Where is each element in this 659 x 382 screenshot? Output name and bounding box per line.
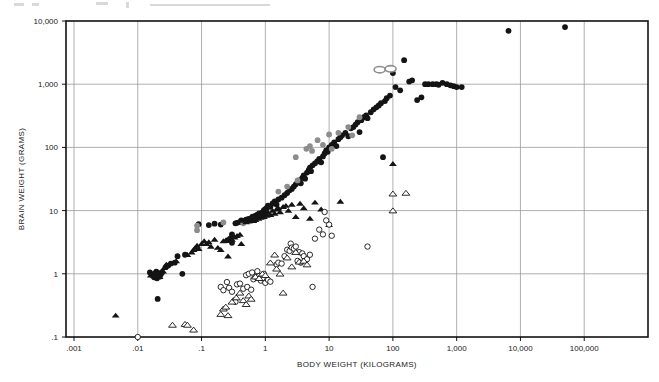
data-point — [506, 28, 512, 34]
data-point — [308, 168, 314, 174]
data-point — [317, 227, 322, 232]
x-tick-label: 10,000 — [508, 344, 533, 353]
data-point — [279, 261, 284, 266]
series-filled-circle — [147, 24, 568, 302]
x-tick-label: 10 — [325, 344, 334, 353]
series-grey-open-outlier — [374, 66, 396, 73]
data-point — [220, 220, 226, 226]
x-tick-label: 1,000 — [447, 344, 468, 353]
data-point — [221, 288, 226, 293]
data-point — [309, 148, 315, 154]
y-tick-label: 10 — [49, 207, 58, 216]
data-point — [295, 178, 301, 184]
data-point — [336, 130, 342, 136]
data-point — [310, 284, 315, 289]
data-point — [206, 222, 212, 228]
data-point — [212, 221, 218, 227]
data-point — [409, 77, 415, 83]
y-tick-label: .1 — [51, 333, 58, 342]
data-point — [387, 93, 393, 99]
data-point — [293, 244, 298, 249]
data-point — [322, 209, 327, 214]
data-point — [194, 227, 200, 233]
data-points — [112, 24, 568, 339]
data-point — [296, 201, 304, 206]
x-tick-label: .001 — [66, 344, 82, 353]
data-point — [275, 189, 281, 195]
y-axis-title: BRAIN WEIGHT (GRAMS) — [17, 128, 26, 230]
data-point — [454, 84, 460, 90]
data-point — [288, 202, 296, 207]
plot-canvas: .001.01.11101001,00010,000100,000 .11101… — [0, 0, 659, 382]
data-point — [336, 199, 344, 204]
data-point — [284, 184, 290, 190]
data-point — [320, 142, 326, 148]
data-point — [224, 253, 232, 258]
data-point — [217, 311, 225, 316]
tick-marks — [62, 21, 584, 341]
y-tick-label: 100 — [45, 143, 59, 152]
series-filled-triangle — [112, 161, 397, 318]
data-point — [385, 66, 396, 72]
x-tick-label: 100,000 — [570, 344, 599, 353]
data-point — [293, 154, 299, 160]
x-tick-label: 1 — [263, 344, 268, 353]
data-point — [307, 252, 312, 257]
y-tick-label: 10,000 — [34, 17, 59, 26]
data-point — [155, 296, 161, 302]
data-point — [273, 266, 281, 271]
data-point — [271, 252, 279, 257]
data-point — [266, 260, 274, 265]
data-point — [357, 129, 363, 135]
data-point — [401, 57, 407, 63]
data-point — [389, 191, 397, 196]
data-point — [365, 115, 371, 121]
data-point — [357, 114, 363, 120]
data-point — [190, 327, 198, 332]
data-point — [380, 154, 386, 160]
data-point — [311, 200, 319, 205]
data-point — [329, 146, 335, 152]
data-point — [320, 232, 325, 237]
data-point — [179, 271, 185, 277]
data-point — [459, 84, 465, 90]
data-point — [232, 295, 240, 300]
data-point — [419, 94, 425, 100]
data-point — [237, 241, 245, 246]
x-tick-label: .01 — [132, 344, 144, 353]
data-point — [306, 216, 314, 221]
data-point — [389, 161, 397, 166]
data-point — [326, 132, 332, 138]
data-point — [288, 264, 296, 269]
scatter-plot-figure: .001.01.11101001,00010,000100,000 .11101… — [0, 0, 659, 382]
y-tick-label: 1 — [54, 270, 59, 279]
data-point — [292, 214, 300, 219]
y-tick-labels: .11101001,00010,000 — [34, 17, 59, 342]
gridlines — [66, 21, 648, 337]
data-point — [402, 190, 410, 195]
data-point — [374, 66, 385, 72]
data-point — [329, 233, 334, 238]
data-point — [268, 279, 273, 284]
series-open-circle — [135, 209, 370, 339]
series-grey-circle — [194, 114, 362, 233]
data-point — [365, 244, 370, 249]
data-point — [349, 132, 355, 138]
y-tick-label: 1,000 — [38, 80, 59, 89]
data-point — [248, 287, 253, 292]
x-tick-labels: .001.01.11101001,00010,000100,000 — [66, 344, 599, 353]
data-point — [211, 237, 219, 242]
data-point — [169, 322, 177, 327]
data-point — [224, 313, 232, 318]
x-axis-title: BODY WEIGHT (KILOGRAMS) — [297, 360, 417, 369]
data-point — [112, 313, 120, 318]
x-tick-label: .1 — [198, 344, 205, 353]
data-point — [312, 236, 317, 241]
data-point — [318, 159, 324, 165]
data-point — [345, 124, 351, 130]
data-point — [315, 137, 321, 143]
plot-frame — [66, 21, 648, 337]
data-point — [562, 24, 568, 30]
data-point — [397, 87, 403, 93]
data-point — [135, 334, 140, 339]
